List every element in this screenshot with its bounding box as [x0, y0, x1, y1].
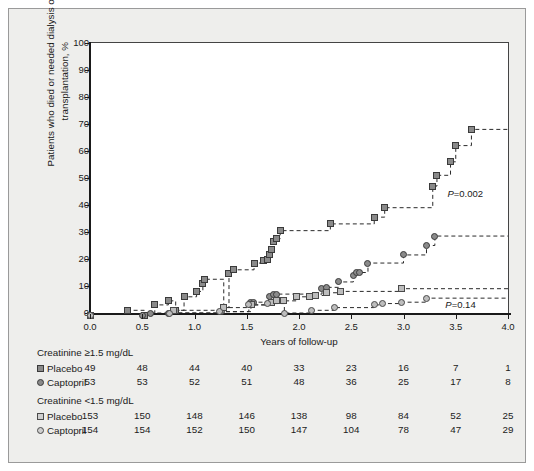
risk-table-cell: 104: [334, 423, 368, 437]
series-step-line: [90, 129, 508, 313]
x-tick-mark: [351, 314, 352, 319]
risk-table-cell: 29: [491, 423, 525, 437]
x-tick-mark: [404, 314, 405, 319]
data-point-marker: [251, 260, 258, 267]
risk-table-cell: 154: [73, 423, 107, 437]
data-point-marker: [273, 235, 280, 242]
risk-table-cell: 16: [387, 361, 421, 375]
data-point-marker: [398, 299, 405, 306]
risk-table-cell: 17: [439, 375, 473, 389]
risk-table-cell: 150: [125, 409, 159, 423]
risk-table-cell: 84: [387, 409, 421, 423]
circle-marker-icon: [37, 427, 44, 434]
risk-table-cell: 49: [73, 361, 107, 375]
x-tick-mark: [456, 314, 457, 319]
square-marker-icon: [37, 413, 44, 420]
data-point-marker: [201, 276, 208, 283]
risk-table-cell: 44: [178, 361, 212, 375]
data-point-marker: [371, 214, 378, 221]
x-tick-mark: [299, 314, 300, 319]
risk-table-cell: 53: [73, 375, 107, 389]
risk-table-cell: 25: [491, 409, 525, 423]
data-point-marker: [327, 220, 334, 227]
risk-table-cell: 138: [282, 409, 316, 423]
data-point-marker: [293, 293, 300, 300]
risk-table-cell: 147: [282, 423, 316, 437]
risk-table-cell: 47: [439, 423, 473, 437]
x-tick-label: 0.5: [122, 321, 162, 332]
x-tick-mark: [90, 314, 91, 319]
risk-table-cell: 148: [178, 409, 212, 423]
x-tick-label: 2.0: [279, 321, 319, 332]
data-point-marker: [151, 301, 158, 308]
risk-table-cell: 150: [230, 423, 264, 437]
risk-table-cell: 98: [334, 409, 368, 423]
data-point-marker: [468, 126, 475, 133]
data-point-marker: [433, 172, 440, 179]
data-point-marker: [447, 158, 454, 165]
risk-table-cell: 152: [178, 423, 212, 437]
data-point-marker: [423, 295, 430, 302]
data-point-marker: [230, 266, 237, 273]
x-tick-label: 1.5: [227, 321, 267, 332]
risk-table-heading: Creatinine <1.5 mg/dL: [37, 395, 134, 406]
risk-table-cell: 51: [230, 375, 264, 389]
risk-table-cell: 36: [334, 375, 368, 389]
risk-table-cell: 52: [439, 409, 473, 423]
x-tick-label: 2.5: [331, 321, 371, 332]
data-point-marker: [312, 292, 319, 299]
p-value-annotation: P=0.14: [445, 299, 475, 310]
x-tick-label: 0.0: [70, 321, 110, 332]
x-tick-label: 1.0: [175, 321, 215, 332]
risk-table-heading: Creatinine ≥1.5 mg/dL: [37, 347, 133, 358]
data-point-marker: [308, 307, 315, 314]
x-tick-label: 3.0: [384, 321, 424, 332]
risk-table-cell: 48: [125, 361, 159, 375]
step-lines: [90, 43, 508, 313]
data-point-marker: [277, 227, 284, 234]
data-point-marker: [429, 183, 436, 190]
risk-table-cell: 1: [491, 361, 525, 375]
data-point-marker: [337, 288, 344, 295]
p-value-annotation: P=0.002: [447, 188, 483, 199]
data-point-marker: [452, 142, 459, 149]
risk-table-cell: 25: [387, 375, 421, 389]
circle-marker-icon: [37, 379, 44, 386]
x-axis-title: Years of follow-up: [89, 336, 509, 347]
risk-table-cell: 52: [178, 375, 212, 389]
risk-table-cell: 48: [282, 375, 316, 389]
risk-table-cell: 53: [125, 375, 159, 389]
data-point-marker: [193, 288, 200, 295]
risk-table-row: Placebo4948444033231671: [37, 361, 509, 375]
x-tick-mark: [247, 314, 248, 319]
plot-area: P=0.002P=0.14: [89, 42, 509, 314]
data-point-marker: [398, 285, 405, 292]
data-point-marker: [124, 307, 131, 314]
risk-table-cell: 146: [230, 409, 264, 423]
y-axis: 0102030405060708090100: [55, 42, 89, 314]
data-point-marker: [323, 289, 330, 296]
x-tick-label: 4.0: [488, 321, 528, 332]
risk-table-cell: 7: [439, 361, 473, 375]
x-tick-label: 3.5: [436, 321, 476, 332]
figure-panel: Patients who died or needed dialysis or …: [8, 8, 526, 463]
data-point-marker: [381, 204, 388, 211]
data-point-marker: [423, 242, 430, 249]
risk-table-cell: 153: [73, 409, 107, 423]
risk-table-cell: 78: [387, 423, 421, 437]
data-point-marker: [431, 233, 438, 240]
data-point-marker: [280, 297, 287, 304]
risk-table-cell: 8: [491, 375, 525, 389]
risk-table-row: Captopril154154152150147104784729: [37, 423, 509, 437]
data-point-marker: [268, 246, 275, 253]
x-tick-mark: [142, 314, 143, 319]
data-point-marker: [273, 297, 280, 304]
risk-table-cell: 23: [334, 361, 368, 375]
risk-table-cell: 33: [282, 361, 316, 375]
square-marker-icon: [37, 365, 44, 372]
risk-table-cell: 40: [230, 361, 264, 375]
data-point-marker: [181, 293, 188, 300]
risk-table-row: Captopril53535251483625178: [37, 375, 509, 389]
risk-table-row: Placebo15315014814613898845225: [37, 409, 509, 423]
x-tick-mark: [508, 314, 509, 319]
